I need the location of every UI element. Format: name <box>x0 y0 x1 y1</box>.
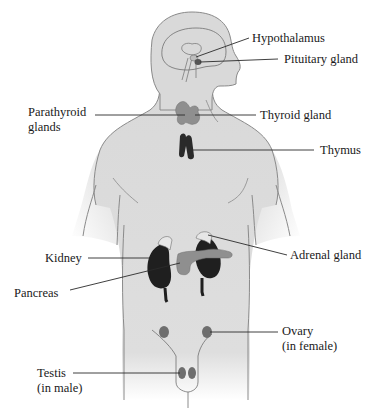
testis-right <box>188 367 196 379</box>
label-ovary-line2: (in female) <box>282 339 337 353</box>
label-kidney: Kidney <box>45 251 82 265</box>
label-pituitary-gland: Pituitary gland <box>284 52 358 66</box>
ovary-left <box>159 326 169 338</box>
body-silhouette <box>72 12 300 400</box>
label-thymus: Thymus <box>320 143 361 157</box>
label-thyroid-gland: Thyroid gland <box>260 108 331 122</box>
label-testis-line2: (in male) <box>37 381 82 395</box>
label-ovary-line1: Ovary <box>282 324 313 338</box>
label-hypothalamus: Hypothalamus <box>252 31 325 45</box>
torso <box>94 84 278 400</box>
label-adrenal-gland: Adrenal gland <box>290 248 361 262</box>
label-parathyroid-line1: Parathyroid <box>28 105 86 119</box>
label-pancreas: Pancreas <box>14 286 58 300</box>
label-testis-line1: Testis <box>37 366 66 380</box>
label-parathyroid-line2: glands <box>28 120 61 134</box>
